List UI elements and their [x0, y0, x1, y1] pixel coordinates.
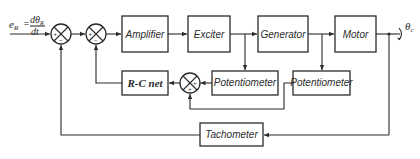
generator-block: Generator: [258, 16, 308, 52]
svg-text:Exciter: Exciter: [194, 29, 225, 40]
svg-text:+: +: [54, 31, 58, 37]
svg-text:dt: dt: [31, 26, 39, 37]
potentiometer-1-block: Potentiometer: [212, 71, 278, 95]
amplifier-block: Amplifier: [122, 16, 168, 52]
svg-text:+: +: [193, 80, 197, 86]
svg-text:=: =: [23, 18, 30, 29]
summing-junction-1: + −: [51, 24, 71, 44]
svg-text:Tachometer: Tachometer: [205, 129, 258, 140]
svg-text:Motor: Motor: [343, 29, 369, 40]
tachometer-block: Tachometer: [200, 123, 263, 146]
svg-text:dθR: dθR: [30, 14, 44, 26]
svg-text:−: −: [59, 37, 63, 43]
svg-text:Potentiometer: Potentiometer: [214, 77, 277, 88]
summing-junction-2: + −: [86, 24, 106, 44]
svg-text:−: −: [94, 37, 98, 43]
potentiometer-2-block: Potentiometer: [290, 71, 353, 95]
arrow-rcnet-sum2: [96, 45, 122, 83]
summing-junction-3: + +: [180, 73, 200, 93]
svg-text:+: +: [188, 86, 192, 92]
svg-text:eR: eR: [9, 18, 19, 32]
svg-text:Generator: Generator: [260, 29, 306, 40]
motor-block: Motor: [335, 16, 376, 52]
svg-text:+: +: [89, 31, 93, 37]
output-label: θc: [397, 20, 414, 40]
svg-text:θc: θc: [405, 20, 414, 34]
svg-text:Amplifier: Amplifier: [125, 29, 166, 40]
block-diagram: eR = dθR dt + − + − Amplifier Exciter: [0, 0, 420, 159]
svg-text:R-C net: R-C net: [126, 77, 163, 89]
exciter-block: Exciter: [188, 16, 230, 52]
rc-net-block: R-C net: [122, 71, 168, 95]
svg-text:Potentiometer: Potentiometer: [290, 77, 353, 88]
